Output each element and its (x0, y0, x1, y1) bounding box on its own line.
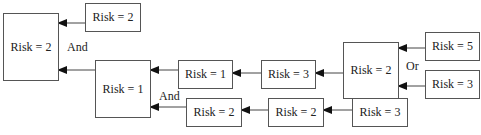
node-label: Risk = 5 (432, 39, 473, 54)
node-or-input2-risk: Risk = 3 (425, 70, 480, 99)
node-label: Risk = 1 (185, 67, 226, 82)
node-chain-a2-risk: Risk = 3 (261, 60, 316, 89)
node-root-child-top-risk: Risk = 2 (85, 3, 141, 32)
node-label: Risk = 3 (432, 77, 473, 92)
or-operator-label: Or (406, 59, 419, 74)
node-label: Risk = 3 (360, 105, 401, 120)
node-chain-b3-risk: Risk = 3 (352, 98, 408, 127)
and-operator-label: And (159, 89, 180, 104)
node-label: Risk = 3 (268, 67, 309, 82)
node-or-input1-risk: Risk = 5 (425, 32, 480, 61)
node-chain-a1-risk: Risk = 1 (178, 60, 233, 89)
node-label: Risk = 2 (11, 40, 52, 55)
node-label: Risk = 2 (351, 63, 392, 78)
node-label: Risk = 2 (93, 10, 134, 25)
node-chain-b2-risk: Risk = 2 (268, 98, 324, 127)
node-label: Risk = 2 (194, 105, 235, 120)
node-mid-risk: Risk = 1 (95, 60, 151, 118)
node-chain-b1-risk: Risk = 2 (186, 98, 242, 127)
node-label: Risk = 2 (276, 105, 317, 120)
node-root-risk: Risk = 2 (3, 13, 59, 81)
and-operator-label: And (67, 40, 88, 55)
node-or-risk: Risk = 2 (343, 42, 399, 99)
node-label: Risk = 1 (103, 82, 144, 97)
